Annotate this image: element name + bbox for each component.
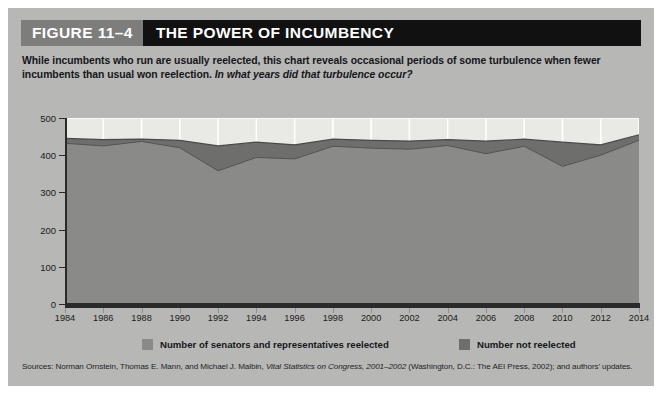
x-axis-line bbox=[65, 303, 640, 308]
legend-swatch-reelected bbox=[142, 339, 153, 350]
figure-header: FIGURE 11–4 THE POWER OF INCUMBENCY bbox=[21, 20, 641, 46]
x-axis-tick bbox=[409, 308, 410, 313]
chart-legend: Number of senators and representatives r… bbox=[22, 338, 644, 354]
series-area-reelected bbox=[65, 140, 639, 304]
x-axis-tick bbox=[65, 308, 66, 313]
x-axis-tick bbox=[448, 308, 449, 313]
x-axis-tick-label: 2004 bbox=[437, 313, 457, 323]
x-axis-tick-label: 2000 bbox=[361, 313, 381, 323]
y-axis-tick-label: 500 bbox=[22, 113, 56, 124]
area-chart-svg bbox=[65, 118, 639, 304]
x-axis-tick-label: 1992 bbox=[208, 313, 228, 323]
legend-label-not-reelected: Number not reelected bbox=[477, 339, 576, 350]
legend-item-not-reelected: Number not reelected bbox=[459, 339, 576, 350]
x-axis-tick bbox=[218, 308, 219, 313]
x-axis-tick-label: 2010 bbox=[552, 313, 572, 323]
x-axis-tick-label: 1990 bbox=[170, 313, 190, 323]
figure-title: THE POWER OF INCUMBENCY bbox=[143, 20, 641, 46]
x-axis-tick-label: 1988 bbox=[131, 313, 151, 323]
x-axis-tick bbox=[142, 308, 143, 313]
source-suffix: (Washington, D.C.: The AEI Press, 2002);… bbox=[406, 362, 632, 371]
y-axis-tick-label: 200 bbox=[22, 224, 56, 235]
x-axis-tick bbox=[524, 308, 525, 313]
y-axis-tick bbox=[59, 230, 65, 231]
y-axis-tick-label: 100 bbox=[22, 261, 56, 272]
x-axis-tick bbox=[371, 308, 372, 313]
subtitle-question-text: In what years did that turbulence occur? bbox=[215, 69, 413, 80]
legend-label-reelected: Number of senators and representatives r… bbox=[160, 339, 389, 350]
y-axis-tick bbox=[59, 304, 65, 305]
y-axis-line bbox=[65, 118, 67, 304]
x-axis-tick-label: 1984 bbox=[55, 313, 75, 323]
x-axis-tick bbox=[256, 308, 257, 313]
x-axis-tick-label: 2008 bbox=[514, 313, 534, 323]
legend-swatch-not-reelected bbox=[459, 339, 470, 350]
y-axis-tick-label: 400 bbox=[22, 150, 56, 161]
x-axis-tick-label: 2012 bbox=[590, 313, 610, 323]
source-note: Sources: Norman Ornstein, Thomas E. Mann… bbox=[22, 361, 646, 372]
x-axis-tick-label: 1994 bbox=[246, 313, 266, 323]
x-axis-tick bbox=[103, 308, 104, 313]
y-axis-tick-label: 300 bbox=[22, 187, 56, 198]
y-axis-tick-label: 0 bbox=[22, 299, 56, 310]
chart: 0100200300400500 19841986198819901992199… bbox=[22, 108, 646, 318]
figure-number-badge: FIGURE 11–4 bbox=[21, 20, 143, 46]
y-axis-tick bbox=[59, 118, 65, 119]
x-axis-tick bbox=[601, 308, 602, 313]
y-axis-tick bbox=[59, 267, 65, 268]
x-axis-tick bbox=[333, 308, 334, 313]
legend-item-reelected: Number of senators and representatives r… bbox=[142, 339, 389, 350]
x-axis-tick-label: 1986 bbox=[93, 313, 113, 323]
figure-panel: FIGURE 11–4 THE POWER OF INCUMBENCY Whil… bbox=[8, 8, 654, 386]
figure-subtitle: While incumbents who run are usually ree… bbox=[22, 54, 644, 82]
x-axis-tick-label: 1996 bbox=[284, 313, 304, 323]
x-axis-tick-label: 2014 bbox=[629, 313, 649, 323]
figure-container: FIGURE 11–4 THE POWER OF INCUMBENCY Whil… bbox=[0, 0, 662, 394]
x-axis-tick-label: 2002 bbox=[399, 313, 419, 323]
y-axis-tick bbox=[59, 192, 65, 193]
x-axis-tick-label: 1998 bbox=[323, 313, 343, 323]
x-axis-tick bbox=[486, 308, 487, 313]
source-prefix: Sources: Norman Ornstein, Thomas E. Mann… bbox=[22, 362, 266, 371]
plot-area bbox=[65, 118, 639, 304]
y-axis-tick bbox=[59, 155, 65, 156]
x-axis-tick-label: 2006 bbox=[476, 313, 496, 323]
x-axis-tick bbox=[639, 308, 640, 313]
x-axis-tick bbox=[562, 308, 563, 313]
source-italic-title: Vital Statistics on Congress, 2001–2002 bbox=[266, 362, 406, 371]
x-axis-tick bbox=[295, 308, 296, 313]
x-axis-tick bbox=[180, 308, 181, 313]
